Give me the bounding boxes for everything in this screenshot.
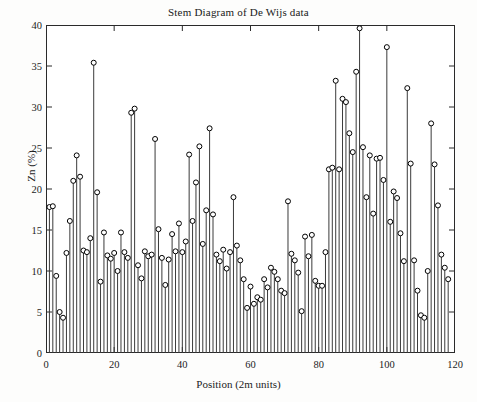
y-tick-label: 10 xyxy=(0,266,42,277)
x-tick-label: 100 xyxy=(367,359,407,370)
x-tick-label: 20 xyxy=(94,359,134,370)
page-title: Stem Diagram of De Wijs data xyxy=(0,6,477,18)
x-axis-label: Position (2m units) xyxy=(0,378,477,390)
y-tick-label: 35 xyxy=(0,61,42,72)
stem-diagram-figure: Stem Diagram of De Wijs data 05101520253… xyxy=(0,0,477,402)
y-axis-label: Zn (%) xyxy=(25,121,37,211)
y-tick-label: 0 xyxy=(0,348,42,359)
stem-plot-canvas xyxy=(46,25,455,353)
x-tick-label: 0 xyxy=(26,359,66,370)
stem-lines xyxy=(49,30,448,353)
y-tick-label: 5 xyxy=(0,307,42,318)
x-tick-label: 120 xyxy=(435,359,475,370)
plot-area xyxy=(46,25,455,353)
x-tick-label: 40 xyxy=(162,359,202,370)
y-tick-label: 15 xyxy=(0,225,42,236)
y-tick-label: 40 xyxy=(0,20,42,31)
y-tick-label: 30 xyxy=(0,102,42,113)
x-tick-label: 60 xyxy=(231,359,271,370)
x-tick-label: 80 xyxy=(299,359,339,370)
